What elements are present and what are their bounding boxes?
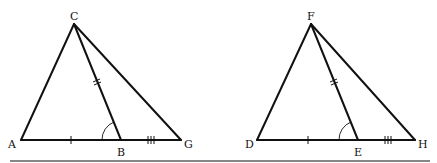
point-label-G: G — [184, 138, 193, 151]
point-label-B: B — [117, 146, 125, 159]
segment-FE — [311, 24, 358, 140]
segment-FD — [257, 24, 311, 140]
point-label-E: E — [354, 146, 362, 159]
segment-CB — [74, 24, 121, 140]
segment-CG — [74, 24, 181, 140]
segment-CA — [21, 24, 74, 140]
point-label-C: C — [70, 10, 78, 23]
point-label-F: F — [307, 10, 315, 23]
triangle-figure-right: F D E H — [245, 10, 428, 159]
point-label-H: H — [418, 138, 428, 151]
angle-arc-FED — [339, 122, 351, 140]
point-label-D: D — [245, 138, 254, 151]
triangle-figure-left: C A B G — [7, 10, 193, 159]
segment-FH — [311, 24, 415, 140]
geometry-diagram: C A B G F D E H — [0, 0, 437, 163]
angle-arc-CBA — [102, 122, 114, 140]
point-label-A: A — [7, 138, 17, 151]
